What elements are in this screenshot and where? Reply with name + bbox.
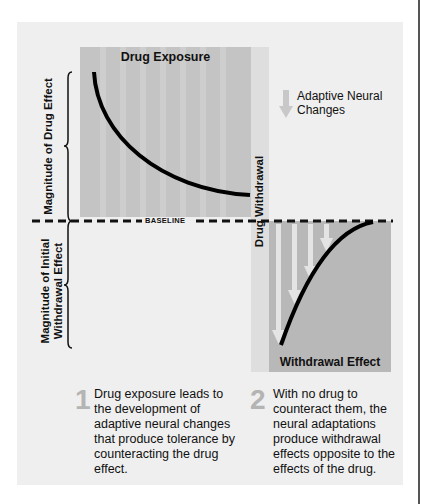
drug-withdrawal-label: Drug Withdrawal — [253, 142, 266, 262]
withdrawal-effect-title: Withdrawal Effect — [269, 355, 391, 369]
legend-label: Adaptive Neural Changes — [297, 89, 382, 117]
baseline-label: BASELINE — [145, 216, 185, 225]
drug-exposure-title: Drug Exposure — [80, 50, 251, 64]
tolerance-curve — [94, 72, 250, 195]
magnitude-withdrawal-line2: Withdrawal Effect — [52, 226, 65, 356]
upper-brace — [64, 72, 72, 221]
step-note-1: Drug exposure leads to the development o… — [94, 387, 244, 477]
adaptive-change-arrows — [272, 224, 333, 344]
legend-line1: Adaptive Neural — [297, 89, 382, 103]
legend-line2: Changes — [297, 103, 382, 117]
down-arrow-icon — [279, 90, 293, 118]
magnitude-withdrawal-line1: Magnitude of Initial — [39, 226, 52, 356]
step-number-1: 1 — [75, 386, 91, 414]
magnitude-withdrawal-effect-label: Magnitude of Initial Withdrawal Effect — [39, 226, 65, 356]
step-note-2: With no drug to counteract them, the neu… — [273, 387, 403, 477]
step-number-2: 2 — [250, 386, 266, 414]
lower-brace — [64, 221, 72, 348]
magnitude-drug-effect-label: Magnitude of Drug Effect — [42, 72, 55, 222]
